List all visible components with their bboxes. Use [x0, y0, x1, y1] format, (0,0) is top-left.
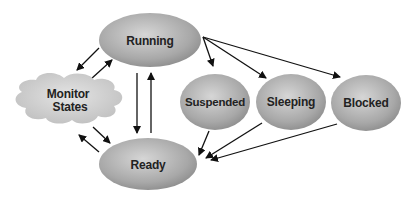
- node-sleeping: Sleeping: [256, 74, 326, 130]
- node-blocked: Blocked: [331, 75, 401, 131]
- arrow-monitor-to-ready: [93, 127, 110, 143]
- node-suspended: Suspended: [180, 74, 250, 130]
- node-ready-label: Ready: [130, 158, 166, 172]
- node-running-label: Running: [126, 34, 173, 48]
- arrow-running-to-monitor: [77, 48, 99, 70]
- node-monitor-label-line2: States: [53, 100, 88, 114]
- arrow-suspended-to-ready: [199, 131, 209, 155]
- node-running: Running: [99, 13, 201, 67]
- node-ready: Ready: [99, 138, 197, 190]
- node-blocked-label: Blocked: [343, 96, 388, 110]
- arrow-running-to-suspended: [203, 37, 213, 66]
- arrow-running-to-sleeping: [203, 37, 266, 78]
- node-sleeping-label: Sleeping: [267, 95, 315, 109]
- arrow-blocked-to-ready: [211, 124, 337, 160]
- arrow-running-to-blocked: [203, 37, 340, 77]
- state-diagram: Running Monitor States Suspended Sleepin…: [0, 0, 419, 198]
- arrow-ready-to-monitor: [79, 135, 99, 152]
- arrow-monitor-to-running: [91, 60, 112, 79]
- node-suspended-label: Suspended: [185, 96, 245, 108]
- node-monitor-label-line1: Monitor: [47, 87, 90, 101]
- node-monitor-states: Monitor States: [16, 73, 123, 124]
